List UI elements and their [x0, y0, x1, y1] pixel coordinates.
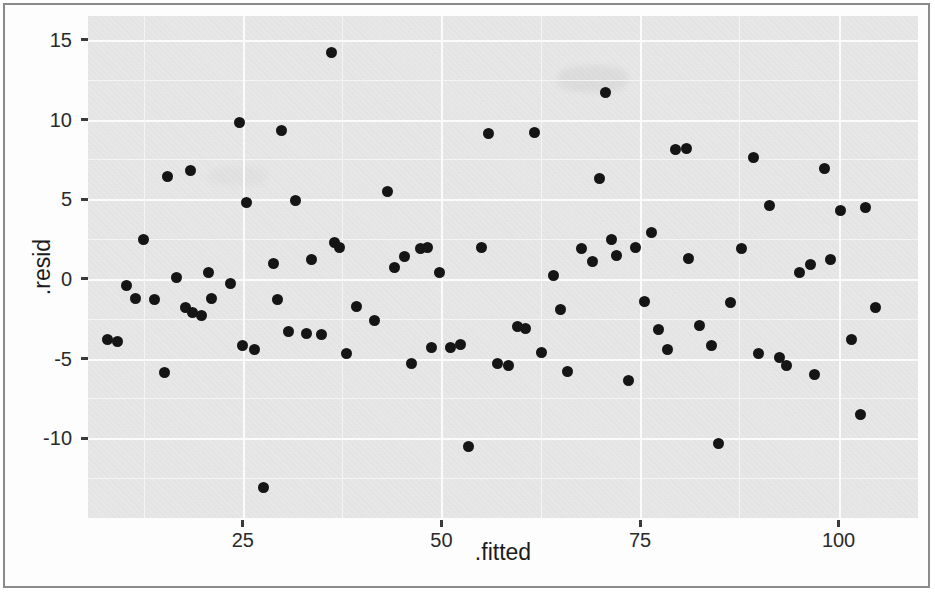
data-point	[455, 339, 466, 350]
data-point	[835, 205, 846, 216]
data-point	[653, 324, 664, 335]
data-point	[794, 267, 805, 278]
data-point	[463, 441, 474, 452]
data-point	[162, 171, 173, 182]
gridline-major-vertical	[640, 16, 642, 518]
scan-noise-overlay	[88, 16, 918, 518]
data-point	[683, 253, 694, 264]
data-point	[606, 234, 617, 245]
data-point	[434, 267, 445, 278]
plot-panel	[88, 16, 918, 518]
data-point	[825, 254, 836, 265]
gridline-minor-horizontal	[88, 239, 918, 240]
data-point	[206, 293, 217, 304]
gridline-minor-horizontal	[88, 398, 918, 399]
gridline-major-horizontal	[88, 40, 918, 42]
y-axis-tick-label: -10	[0, 428, 72, 448]
data-point	[112, 336, 123, 347]
data-point	[725, 297, 736, 308]
gridline-minor-horizontal	[88, 319, 918, 320]
scan-smudge	[208, 166, 268, 186]
data-point	[268, 258, 279, 269]
data-point	[594, 173, 605, 184]
gridline-minor-vertical	[342, 16, 343, 518]
data-point	[225, 278, 236, 289]
gridline-major-vertical	[839, 16, 841, 518]
y-axis-tick-mark	[81, 198, 88, 201]
x-axis-title: .fitted	[475, 539, 531, 566]
data-point	[662, 344, 673, 355]
gridline-minor-horizontal	[88, 478, 918, 479]
data-point	[476, 242, 487, 253]
data-point	[503, 360, 514, 371]
y-axis-tick-label: 15	[0, 30, 72, 50]
y-axis-tick-mark	[81, 357, 88, 360]
data-point	[736, 243, 747, 254]
data-point	[483, 128, 494, 139]
x-axis-tick-label: 100	[822, 530, 855, 550]
data-point	[283, 326, 294, 337]
data-point	[130, 293, 141, 304]
data-point	[290, 195, 301, 206]
y-axis-tick-mark	[81, 38, 88, 41]
data-point	[529, 127, 540, 138]
gridline-minor-vertical	[144, 16, 145, 518]
gridline-major-horizontal	[88, 120, 918, 122]
y-axis-tick-mark	[81, 437, 88, 440]
scatter-plot: 151050-5-10 255075100 .resid .fitted	[0, 0, 935, 592]
data-point	[306, 254, 317, 265]
data-point	[389, 262, 400, 273]
data-point	[406, 358, 417, 369]
data-point	[149, 294, 160, 305]
x-axis-tick-mark	[241, 520, 244, 527]
x-axis-tick-label: 50	[430, 530, 452, 550]
data-point	[258, 482, 269, 493]
y-axis-tick-mark	[81, 277, 88, 280]
gridline-minor-horizontal	[88, 80, 918, 81]
data-point	[399, 251, 410, 262]
data-point	[555, 304, 566, 315]
gridline-minor-vertical	[739, 16, 740, 518]
data-point	[764, 200, 775, 211]
data-point	[249, 344, 260, 355]
data-point	[855, 409, 866, 420]
data-point	[870, 302, 881, 313]
data-point	[748, 152, 759, 163]
data-point	[171, 272, 182, 283]
data-point	[706, 340, 717, 351]
x-axis-tick-label: 75	[629, 530, 651, 550]
data-point	[646, 227, 657, 238]
gridline-major-horizontal	[88, 279, 918, 281]
data-point	[237, 340, 248, 351]
y-axis-title: .resid	[29, 239, 56, 295]
data-point	[334, 242, 345, 253]
data-point	[639, 296, 650, 307]
x-axis-tick-mark	[837, 520, 840, 527]
data-point	[809, 369, 820, 380]
data-point	[520, 323, 531, 334]
data-point	[562, 366, 573, 377]
data-point	[276, 125, 287, 136]
data-point	[426, 342, 437, 353]
data-point	[203, 267, 214, 278]
data-point	[422, 242, 433, 253]
data-point	[600, 87, 611, 98]
data-point	[819, 163, 830, 174]
data-point	[316, 329, 327, 340]
data-point	[576, 243, 587, 254]
data-point	[121, 280, 132, 291]
data-point	[272, 294, 283, 305]
y-axis-tick-label: -5	[0, 349, 72, 369]
data-point	[805, 259, 816, 270]
data-point	[138, 234, 149, 245]
x-axis-tick-mark	[440, 520, 443, 527]
data-point	[681, 143, 692, 154]
gridline-minor-horizontal	[88, 159, 918, 160]
data-point	[241, 197, 252, 208]
data-point	[351, 301, 362, 312]
data-point	[781, 360, 792, 371]
gridline-minor-vertical	[541, 16, 542, 518]
data-point	[630, 242, 641, 253]
data-point	[492, 358, 503, 369]
x-axis-tick-label: 25	[232, 530, 254, 550]
